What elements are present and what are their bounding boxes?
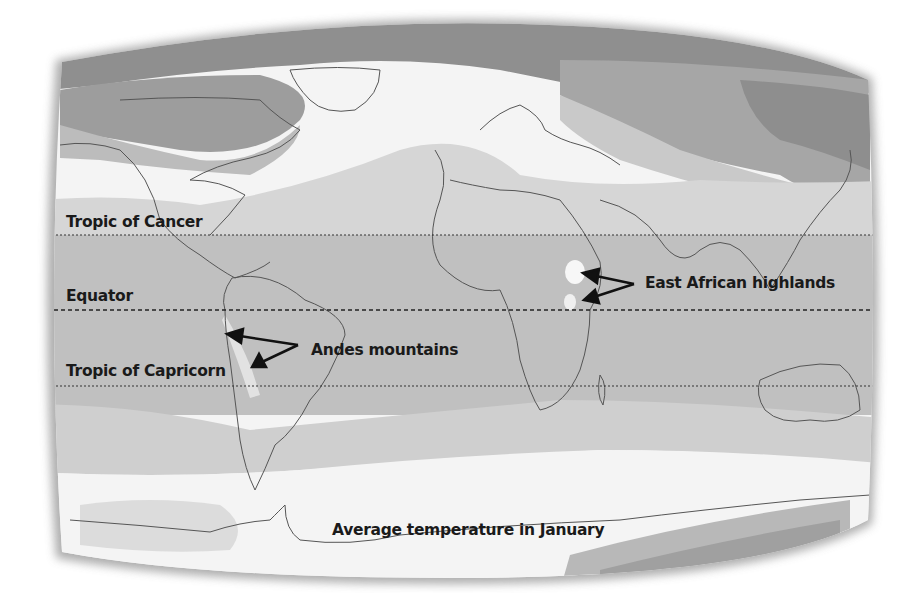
equator-label: Equator <box>66 287 133 305</box>
tropic-of-capricorn-label: Tropic of Capricorn <box>66 362 226 380</box>
east-african-highlands-spot-2 <box>564 294 576 310</box>
map-caption: Average temperature in January <box>332 521 604 539</box>
antarctica-west-zone <box>80 500 238 552</box>
andes-mountains-label: Andes mountains <box>311 341 458 359</box>
world-temperature-map: Tropic of Cancer Equator Tropic of Capri… <box>0 0 900 593</box>
east-african-highlands-label: East African highlands <box>645 274 835 292</box>
tropical-band <box>0 235 900 415</box>
map-graphic <box>0 0 900 593</box>
tropic-of-cancer-label: Tropic of Cancer <box>66 213 202 231</box>
